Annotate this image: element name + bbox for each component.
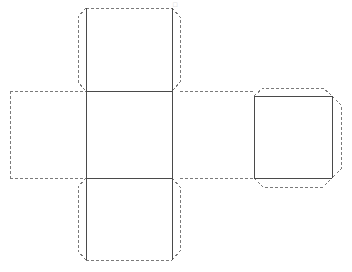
glue-flaps-group	[78, 8, 341, 260]
flap-top-panel-right	[172, 8, 180, 91]
flap-right-panel-right	[332, 96, 341, 178]
left-panel-outline	[10, 91, 86, 178]
flap-bottom-panel-left	[78, 178, 86, 260]
connector-panel-outline	[180, 91, 254, 178]
flap-bottom-panel-right	[172, 178, 180, 260]
scan-artifact-mark: □	[173, 2, 179, 8]
cube-net-diagram	[0, 0, 352, 272]
flap-right-panel-bottom	[254, 178, 332, 187]
flap-right-panel-top	[254, 88, 332, 96]
cube-net-stage: □	[0, 0, 352, 272]
flap-top-panel-left	[78, 8, 86, 91]
solid-lines-group	[86, 8, 332, 260]
